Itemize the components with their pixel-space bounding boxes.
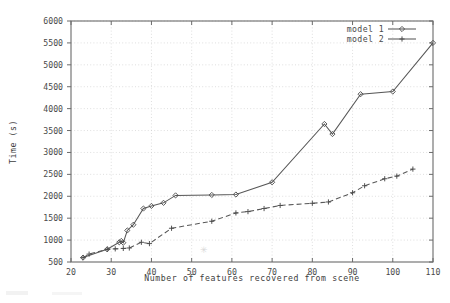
y-tick-label: 5000 — [43, 60, 63, 70]
y-tick-label: 2000 — [43, 191, 63, 201]
x-axis-tickmarks — [71, 21, 433, 262]
x-tick-label: 100 — [385, 267, 400, 277]
y-tick-label: 6000 — [43, 16, 63, 26]
y-axis-tickmarks — [67, 21, 433, 262]
x-tick-label: 20 — [66, 267, 76, 277]
legend-label-2: model 2 — [347, 34, 384, 44]
x-tick-label: 110 — [426, 267, 441, 277]
y-tick-label: 1500 — [43, 213, 63, 223]
x-tick-label: 30 — [106, 267, 116, 277]
legend-label-1: model 1 — [347, 24, 384, 34]
y-axis-title: Time (s) — [8, 120, 18, 164]
y-tick-label: 1000 — [43, 235, 63, 245]
y-tick-label: 3000 — [43, 147, 63, 157]
chart-container: 5001000150020002500300035004000450050005… — [0, 0, 450, 303]
y-tick-label: 4500 — [43, 82, 63, 92]
corner-artifact — [6, 291, 28, 295]
corner-artifact-secondary — [52, 292, 82, 295]
y-tick-label: 4000 — [43, 104, 63, 114]
y-tick-label: 3500 — [43, 126, 63, 136]
grid-lines — [71, 21, 433, 262]
data-series-group — [80, 40, 435, 260]
x-axis-title: Number of features recovered from scene — [144, 273, 360, 283]
y-tick-label: 500 — [48, 257, 63, 267]
y-tick-label: 2500 — [43, 169, 63, 179]
plot-frame — [71, 21, 433, 262]
line-chart: 5001000150020002500300035004000450050005… — [0, 0, 450, 303]
chart-legend: model 1model 2 — [347, 24, 416, 44]
y-axis-tick-labels: 5001000150020002500300035004000450050005… — [43, 16, 63, 267]
background-watermark: ✳ — [200, 245, 208, 255]
y-tick-label: 5500 — [43, 38, 63, 48]
